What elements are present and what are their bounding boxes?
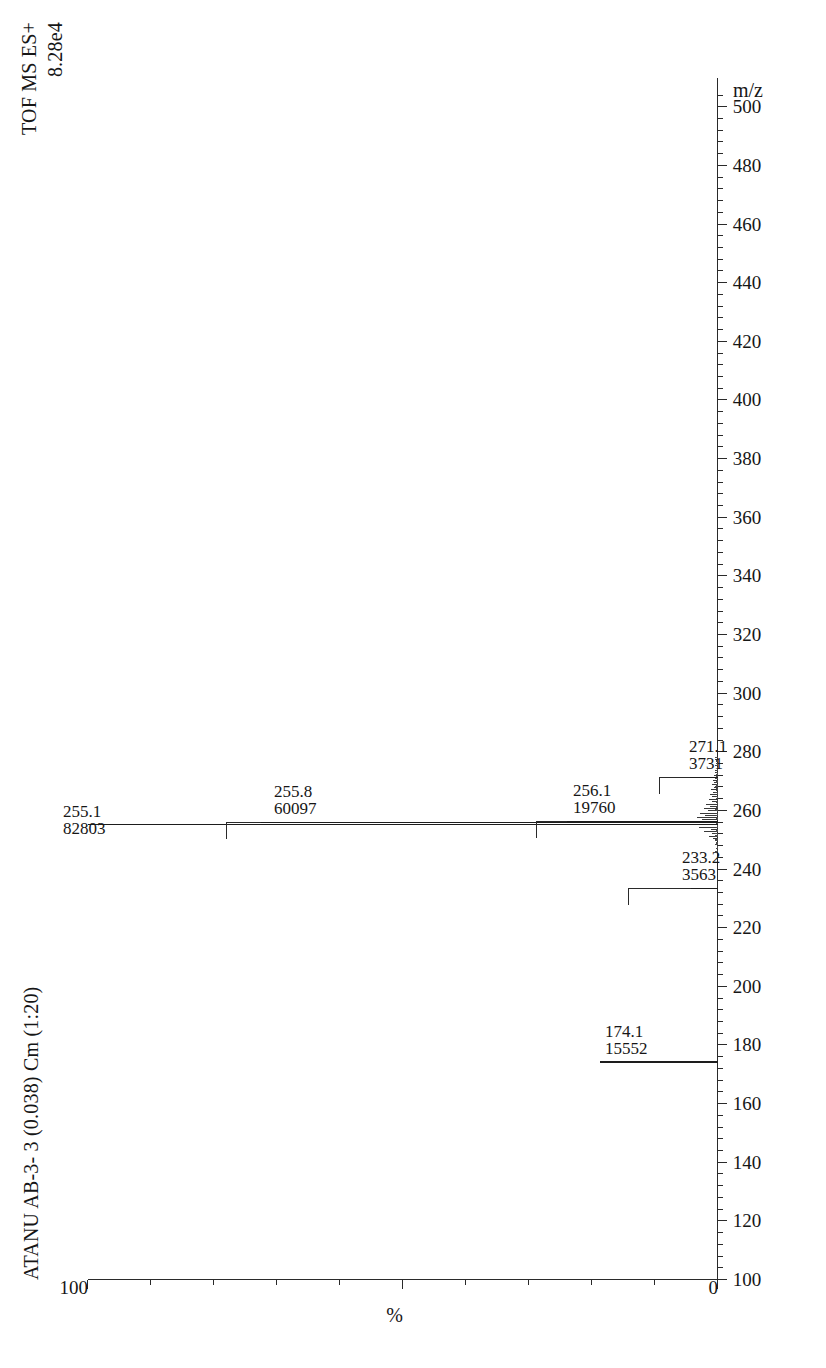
peak-mz-value: 233.2: [682, 850, 720, 867]
mz-tick-minor: [718, 728, 723, 729]
mz-tick-minor: [718, 142, 723, 143]
percent-axis-line: [88, 1279, 718, 1280]
mz-tick-minor: [718, 951, 723, 952]
baseline-noise-peak: [717, 838, 718, 839]
mz-tick-minor: [718, 376, 723, 377]
annotation-leader-line: [537, 821, 567, 822]
mz-tick-minor: [718, 915, 723, 916]
mz-tick-minor: [718, 235, 723, 236]
baseline-noise-peak: [716, 774, 718, 775]
mz-tick-minor: [718, 1209, 723, 1210]
mz-tick-label: 200: [733, 976, 762, 998]
mz-tick-major: [718, 1220, 727, 1221]
percent-axis-min-label: 0: [678, 1277, 718, 1299]
mz-tick-minor: [718, 1232, 723, 1233]
percent-axis-max-label: 100: [48, 1277, 88, 1299]
annotation-leader-line: [629, 889, 691, 890]
mz-tick-major: [718, 458, 727, 459]
mz-tick-label: 100: [733, 1269, 762, 1291]
baseline-noise-peak: [715, 844, 718, 845]
percent-tick: [150, 1280, 151, 1285]
mz-tick-minor: [718, 1033, 723, 1034]
mz-tick-minor: [718, 786, 723, 787]
mz-tick-minor: [718, 505, 723, 506]
percent-tick: [528, 1280, 529, 1285]
percent-axis-title: %: [386, 1304, 403, 1327]
baseline-noise-peak: [717, 811, 718, 812]
baseline-noise-peak: [716, 843, 718, 844]
spectrum-peak: [690, 777, 718, 778]
mz-tick-minor: [718, 1256, 723, 1257]
baseline-noise-peak: [716, 818, 718, 819]
mz-tick-major: [718, 106, 727, 107]
mz-tick-label: 320: [733, 624, 762, 646]
mz-tick-minor: [718, 704, 723, 705]
baseline-noise-peak: [715, 778, 718, 779]
baseline-noise-peak: [716, 788, 718, 789]
mz-tick-minor: [718, 528, 723, 529]
ion-mode-label: TOF MS ES+: [18, 22, 41, 135]
mz-tick-minor: [718, 1091, 723, 1092]
mz-tick-label: 440: [733, 272, 762, 294]
baseline-noise-peak: [716, 796, 718, 797]
mz-tick-minor: [718, 95, 723, 96]
peak-mz-value: 271.1: [689, 738, 727, 755]
baseline-noise-peak: [716, 827, 718, 828]
mz-tick-minor: [718, 587, 723, 588]
mz-tick-minor: [718, 904, 723, 905]
mz-tick-major: [718, 575, 727, 576]
spectrum-plot-area: 1001201401601802002202402602803003203403…: [88, 78, 718, 1280]
baseline-noise-peak: [717, 834, 718, 835]
mz-tick-label: 240: [733, 859, 762, 881]
peak-label: 271.13731: [689, 738, 727, 773]
baseline-noise-peak: [715, 840, 718, 841]
baseline-noise-peak: [716, 784, 718, 785]
peak-mz-value: 256.1: [573, 782, 616, 799]
mz-tick-minor: [718, 998, 723, 999]
baseline-noise-peak: [716, 801, 718, 802]
spectrum-peak: [691, 888, 718, 889]
mz-tick-minor: [718, 423, 723, 424]
annotation-leader-line: [628, 889, 629, 906]
mz-tick-minor: [718, 1185, 723, 1186]
mz-tick-minor: [718, 540, 723, 541]
mz-tick-minor: [718, 493, 723, 494]
baseline-noise-peak: [717, 814, 718, 815]
mz-tick-minor: [718, 364, 723, 365]
mz-tick-major: [718, 986, 727, 987]
annotation-leader-line: [536, 821, 537, 838]
peak-abundance-value: 19760: [573, 800, 616, 817]
mz-tick-minor: [718, 411, 723, 412]
baseline-noise-peak: [716, 830, 718, 831]
mz-tick-label: 340: [733, 565, 762, 587]
baseline-noise-peak: [715, 835, 718, 836]
peak-label: 174.115552: [605, 1023, 648, 1058]
baseline-noise-peak: [717, 817, 718, 818]
mz-tick-minor: [718, 130, 723, 131]
annotation-leader-line: [660, 777, 690, 778]
peak-abundance-value: 82803: [63, 821, 106, 838]
peak-label: 256.119760: [573, 782, 616, 817]
baseline-noise-peak: [715, 836, 718, 837]
baseline-noise-peak: [717, 803, 718, 804]
baseline-noise-peak: [715, 833, 718, 834]
mz-tick-label: 420: [733, 331, 762, 353]
mz-tick-major: [718, 927, 727, 928]
mz-tick-label: 260: [733, 800, 762, 822]
peak-label: 255.860097: [274, 783, 317, 818]
mz-tick-minor: [718, 611, 723, 612]
mz-tick-minor: [718, 599, 723, 600]
mz-tick-minor: [718, 657, 723, 658]
baseline-noise-peak: [716, 781, 718, 782]
mz-tick-major: [718, 810, 727, 811]
mz-tick-minor: [718, 1009, 723, 1010]
mz-tick-minor: [718, 669, 723, 670]
percent-tick: [465, 1280, 466, 1285]
baseline-noise-peak: [716, 842, 718, 843]
mz-tick-major: [718, 1279, 727, 1280]
mz-tick-minor: [718, 798, 723, 799]
percent-tick: [402, 1280, 403, 1289]
mz-tick-minor: [718, 446, 723, 447]
mz-tick-minor: [718, 247, 723, 248]
mz-tick-minor: [718, 1173, 723, 1174]
